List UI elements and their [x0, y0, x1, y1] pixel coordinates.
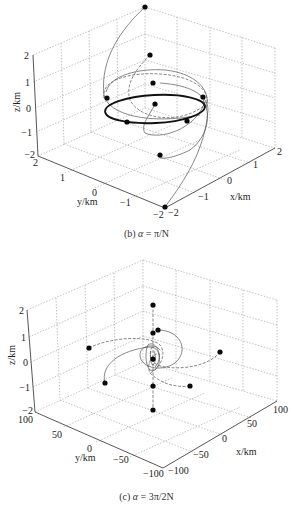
svg-text:1: 1 — [60, 172, 65, 183]
svg-text:1: 1 — [25, 77, 30, 88]
z-axis-label: z/km — [11, 92, 22, 112]
z-axis-label: z/km — [6, 345, 17, 365]
svg-text:0: 0 — [227, 175, 232, 186]
formation-orbit — [104, 92, 205, 125]
y-axis-ticks: 100 50 0 −50 −100 — [18, 414, 164, 479]
z-axis-line — [33, 55, 38, 156]
chart-panel-c: 2 1 0 −1 −2 z/km 100 50 0 −50 −100 y/km … — [0, 255, 293, 511]
svg-text:2: 2 — [33, 157, 38, 168]
svg-text:100: 100 — [18, 414, 33, 425]
svg-text:−50: −50 — [193, 449, 209, 460]
chart-3d-plot-c: 2 1 0 −1 −2 z/km 100 50 0 −50 −100 y/km … — [0, 255, 293, 490]
x-axis-label: x/km — [230, 191, 251, 202]
spacecraft-markers — [86, 302, 222, 412]
x-axis-ticks: −100 −50 0 50 100 — [168, 404, 288, 476]
z-axis-ticks: 2 1 0 −1 −2 — [21, 50, 35, 160]
spacecraft-markers — [104, 4, 205, 209]
svg-text:100: 100 — [273, 404, 288, 415]
svg-text:−1: −1 — [198, 191, 209, 202]
svg-text:−1: −1 — [21, 127, 32, 138]
svg-text:0: 0 — [222, 433, 227, 444]
svg-text:2: 2 — [277, 146, 282, 157]
y-axis-label: y/km — [75, 452, 96, 463]
svg-text:0: 0 — [26, 103, 31, 114]
x-axis-line — [165, 148, 275, 208]
svg-text:50: 50 — [247, 418, 257, 429]
y-axis-label: y/km — [77, 196, 98, 207]
svg-text:50: 50 — [52, 429, 62, 440]
chart-panel-b: 2 1 0 −1 −2 z/km 2 1 0 −1 −2 y/km −2 −1 … — [0, 0, 293, 250]
y-axis-ticks: 2 1 0 −1 −2 — [33, 157, 164, 220]
x-axis-label: x/km — [236, 446, 257, 457]
y-axis-line — [38, 156, 165, 208]
svg-text:−1: −1 — [120, 197, 131, 208]
svg-text:2: 2 — [24, 50, 29, 61]
svg-text:2: 2 — [19, 305, 24, 316]
svg-text:−2: −2 — [153, 209, 164, 220]
svg-text:−50: −50 — [113, 454, 129, 465]
svg-text:1: 1 — [253, 159, 258, 170]
z-axis-line — [27, 310, 35, 412]
trajectories — [103, 7, 208, 207]
svg-text:−100: −100 — [168, 465, 189, 476]
caption-c: (c) α = 3π/2N — [0, 491, 293, 502]
svg-text:−2: −2 — [168, 207, 179, 218]
svg-text:−100: −100 — [143, 468, 164, 479]
caption-b: (b) α = π/N — [0, 228, 293, 239]
svg-text:1: 1 — [21, 332, 26, 343]
svg-text:−1: −1 — [19, 382, 30, 393]
axes — [33, 55, 275, 208]
svg-text:0: 0 — [23, 357, 28, 368]
chart-3d-plot-b: 2 1 0 −1 −2 z/km 2 1 0 −1 −2 y/km −2 −1 … — [0, 0, 293, 230]
